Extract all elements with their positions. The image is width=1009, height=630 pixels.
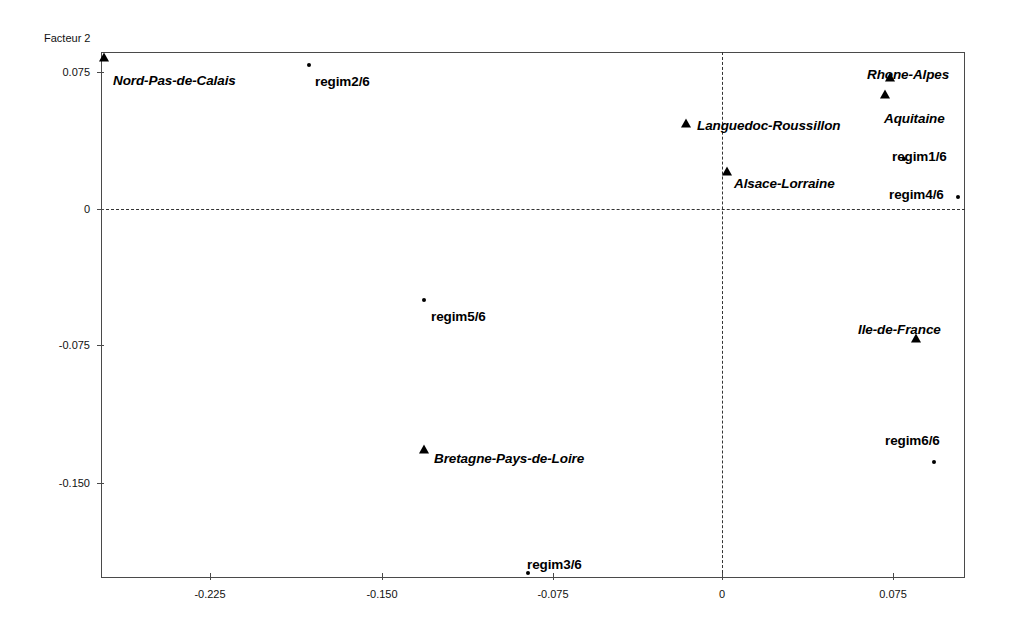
data-point-label: regim4/6 <box>889 188 944 202</box>
x-tick-mark <box>382 573 383 580</box>
data-point-marker-triangle <box>722 167 732 176</box>
horizontal-zero-reference-line <box>101 209 965 210</box>
y-tick-label: 0.075 <box>36 66 90 78</box>
x-tick-label: 0.075 <box>879 588 907 600</box>
y-tick-mark <box>97 72 104 73</box>
scatter-plot-canvas: Facteur 2 -0.225 -0.150 -0.075 0 0.075 0… <box>0 0 1009 630</box>
y-tick-mark <box>97 345 104 346</box>
y-tick-label: -0.075 <box>36 339 90 351</box>
x-tick-mark <box>210 573 211 580</box>
data-point-marker-dot <box>956 195 960 199</box>
data-point-label: regim3/6 <box>527 558 582 572</box>
data-point-label: regim2/6 <box>315 75 370 89</box>
data-point-label: Aquitaine <box>884 112 945 126</box>
data-point-label: Alsace-Lorraine <box>734 177 835 191</box>
data-point-label: regim6/6 <box>885 434 940 448</box>
data-point-label: regim5/6 <box>431 310 486 324</box>
y-tick-mark <box>97 483 104 484</box>
data-point-marker-triangle <box>419 445 429 454</box>
x-tick-mark <box>553 573 554 580</box>
y-tick-label: -0.150 <box>36 477 90 489</box>
data-point-label: Languedoc-Roussillon <box>697 119 841 133</box>
x-tick-mark <box>893 573 894 580</box>
x-tick-label: 0 <box>719 588 725 600</box>
y-tick-mark <box>97 209 104 210</box>
data-point-marker-dot <box>422 298 426 302</box>
y-axis-title: Facteur 2 <box>44 32 90 44</box>
data-point-marker-triangle <box>880 90 890 99</box>
y-tick-label: 0 <box>36 203 90 215</box>
data-point-label: Nord-Pas-de-Calais <box>113 74 236 88</box>
x-tick-label: -0.225 <box>194 588 225 600</box>
data-point-label: Rhone-Alpes <box>867 68 949 82</box>
data-point-marker-dot <box>307 63 311 67</box>
data-point-label: regim1/6 <box>892 150 947 164</box>
data-point-marker-dot <box>932 460 936 464</box>
x-tick-label: -0.150 <box>366 588 397 600</box>
x-tick-mark <box>722 573 723 580</box>
data-point-marker-triangle <box>99 53 109 62</box>
x-tick-label: -0.075 <box>537 588 568 600</box>
data-point-label: Ile-de-France <box>858 323 941 337</box>
data-point-marker-triangle <box>681 119 691 128</box>
data-point-label: Bretagne-Pays-de-Loire <box>434 452 584 466</box>
